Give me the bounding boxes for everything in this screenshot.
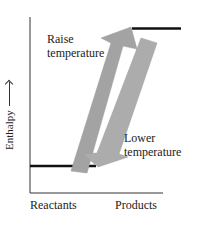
raise-temperature-label: Raise temperature bbox=[47, 32, 104, 60]
lower-temperature-label: Lower temperature bbox=[124, 131, 181, 159]
up-arrow-icon bbox=[9, 82, 10, 106]
raise-label-line2: temperature bbox=[47, 46, 104, 60]
raise-label-line1: Raise bbox=[47, 32, 104, 46]
y-axis-label: Enthalpy bbox=[3, 82, 15, 150]
y-axis-label-text: Enthalpy bbox=[3, 110, 15, 150]
lower-label-line1: Lower bbox=[124, 131, 181, 145]
x-label-products: Products bbox=[115, 198, 157, 212]
lower-label-line2: temperature bbox=[124, 145, 181, 159]
x-label-reactants: Reactants bbox=[30, 198, 77, 212]
